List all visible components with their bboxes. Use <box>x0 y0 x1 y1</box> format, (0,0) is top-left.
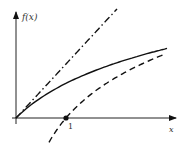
x-axis-label: x <box>169 125 174 134</box>
tick-label-one: 1 <box>68 122 73 131</box>
point-one <box>63 115 68 120</box>
series-solid-curve <box>16 48 167 118</box>
series-dashed-curve <box>49 54 165 142</box>
function-plot: f(x) x 1 <box>0 0 184 147</box>
series-layer <box>16 9 167 142</box>
y-axis-label: f(x) <box>21 12 38 22</box>
series-dash-dot-curve <box>16 9 117 118</box>
